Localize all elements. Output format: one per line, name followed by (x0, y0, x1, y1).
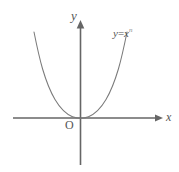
x-axis-label: x (166, 111, 171, 123)
y-axis-label: y (71, 9, 77, 22)
graph-canvas (0, 0, 179, 172)
origin-label: O (65, 119, 74, 131)
function-graph-figure: y x O y=xn (0, 0, 179, 172)
curve-equation-label: y=xn (113, 26, 133, 39)
x-axis-arrowhead (155, 114, 163, 121)
y-axis-arrowhead (77, 20, 85, 29)
equation-exponent: n (129, 26, 133, 34)
